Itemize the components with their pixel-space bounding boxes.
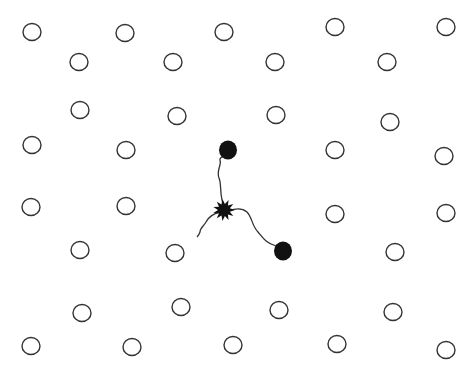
displaced-particle <box>274 242 292 261</box>
background <box>0 0 476 372</box>
displaced-particle <box>219 141 237 160</box>
lattice-diagram <box>0 0 476 372</box>
